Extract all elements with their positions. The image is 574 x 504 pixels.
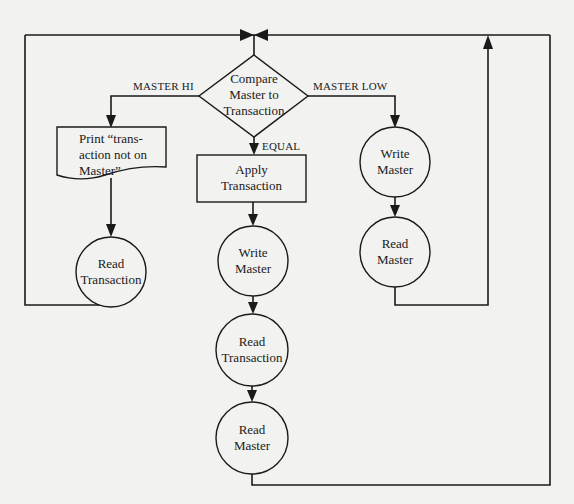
label-line1: Read [217,422,287,438]
decision-line2: Master to [199,87,309,103]
label-line1: Read [217,334,287,350]
arrow-down-icon [249,143,259,155]
label-line1: Write [218,245,288,261]
read-master-right-label: Read Master [360,236,430,268]
print-line2: action not on [79,147,147,163]
label-line2: Transaction [217,350,287,366]
connector-left-icon [240,29,254,41]
decision-line1: Compare [199,71,309,87]
arrow-down-icon [390,115,400,128]
print-document-label: Print “trans- action not on Master” [79,131,147,179]
write-master-middle-label: Write Master [218,245,288,277]
apply-transaction-label: Apply Transaction [197,162,306,194]
arrow-up-icon [483,35,493,49]
arrow-down-icon [248,214,258,226]
master-hi-line [111,96,199,120]
label-line1: Read [76,256,146,272]
label-line1: Apply [197,162,306,178]
label-line2: Master [218,261,288,277]
label-line1: Write [360,146,430,162]
label-line2: Master [360,252,430,268]
arrow-down-icon [106,224,116,237]
arrow-down-icon [390,205,400,217]
print-line1: Print “trans- [79,131,147,147]
label-line2: Transaction [76,272,146,288]
equal-label: EQUAL [262,140,300,152]
arrow-down-icon [106,115,116,128]
label-line2: Master [217,438,287,454]
write-master-right-label: Write Master [360,146,430,178]
read-transaction-left-label: Read Transaction [76,256,146,288]
print-line3: Master” [79,163,147,179]
read-master-middle-label: Read Master [217,422,287,454]
master-low-line [308,96,395,120]
read-transaction-middle-label: Read Transaction [217,334,287,366]
label-line2: Master [360,162,430,178]
decision-line3: Transaction [199,103,309,119]
connector-right-icon [254,29,268,41]
decision-label: Compare Master to Transaction [199,71,309,119]
master-hi-label: MASTER HI [133,80,194,92]
arrow-down-icon [247,390,257,402]
label-line1: Read [360,236,430,252]
master-low-label: MASTER LOW [313,80,387,92]
arrow-down-icon [248,302,258,314]
label-line2: Transaction [197,178,306,194]
